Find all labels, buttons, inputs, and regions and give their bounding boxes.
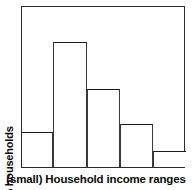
histogram-bar-fill: [53, 42, 87, 167]
x-axis-label: (small) Household income ranges: [0, 171, 192, 187]
histogram-bar-fill: [87, 89, 120, 167]
histogram-bar: [120, 7, 153, 167]
y-axis-label-container: % households: [0, 6, 19, 168]
plot-area: [21, 6, 185, 168]
histogram-bar-fill: [22, 132, 53, 167]
histogram-figure: % households (small) Household income ra…: [0, 0, 192, 190]
histogram-bar-fill: [120, 124, 153, 167]
histogram-bar-fill: [153, 151, 186, 167]
histogram-bar: [22, 7, 53, 167]
histogram-bar: [153, 7, 186, 167]
histogram-bar: [53, 7, 87, 167]
histogram-bar: [87, 7, 120, 167]
bar-series: [22, 7, 184, 167]
